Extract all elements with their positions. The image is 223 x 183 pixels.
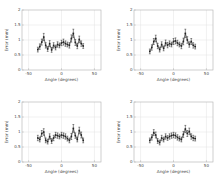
data-point bbox=[59, 45, 61, 47]
data-point bbox=[51, 49, 53, 51]
data-point bbox=[179, 138, 181, 140]
data-point bbox=[65, 43, 67, 45]
data-point bbox=[167, 44, 169, 46]
data-point bbox=[157, 140, 159, 142]
svg-text:2: 2 bbox=[18, 7, 21, 12]
data-point bbox=[39, 46, 41, 48]
data-point bbox=[163, 139, 165, 141]
data-point bbox=[187, 133, 189, 135]
x-axis-label: Angle (degrees) bbox=[157, 169, 191, 174]
data-point bbox=[173, 41, 175, 43]
data-point bbox=[149, 140, 151, 142]
data-point bbox=[183, 41, 185, 43]
svg-text:0: 0 bbox=[18, 159, 21, 164]
svg-text:1.5: 1.5 bbox=[14, 22, 21, 27]
svg-text:0: 0 bbox=[60, 163, 63, 168]
data-point bbox=[165, 42, 167, 44]
data-point bbox=[159, 49, 161, 51]
data-point bbox=[67, 138, 69, 140]
chart-bottom-right: -5005000.511.52Angle (degrees)Error (mm) bbox=[112, 92, 223, 183]
svg-text:1: 1 bbox=[130, 129, 133, 134]
svg-text:1: 1 bbox=[130, 37, 133, 42]
data-point bbox=[194, 46, 196, 48]
svg-text:0: 0 bbox=[60, 71, 63, 76]
data-point bbox=[163, 48, 165, 50]
data-point bbox=[151, 137, 153, 139]
data-point bbox=[167, 137, 169, 139]
data-point bbox=[39, 139, 41, 141]
svg-text:1.5: 1.5 bbox=[14, 114, 21, 119]
data-point bbox=[190, 41, 192, 43]
data-point bbox=[61, 42, 63, 44]
svg-text:0: 0 bbox=[172, 71, 175, 76]
data-point bbox=[63, 41, 65, 43]
chart-top-left: -5005000.511.52Angle (degrees)Error (mm) bbox=[0, 0, 111, 91]
data-point bbox=[69, 140, 71, 142]
data-point bbox=[37, 49, 39, 51]
data-point bbox=[77, 45, 79, 47]
data-point bbox=[49, 136, 51, 138]
data-point bbox=[57, 135, 59, 137]
data-point bbox=[183, 134, 185, 136]
data-point bbox=[192, 137, 194, 139]
data-point bbox=[185, 128, 187, 130]
data-point bbox=[189, 131, 191, 133]
data-point bbox=[189, 44, 191, 46]
svg-text:0: 0 bbox=[172, 163, 175, 168]
svg-text:1.5: 1.5 bbox=[126, 22, 133, 27]
data-point bbox=[171, 135, 173, 137]
data-point bbox=[55, 134, 57, 136]
svg-text:0: 0 bbox=[130, 67, 133, 72]
svg-text:-50: -50 bbox=[137, 163, 144, 168]
data-point bbox=[181, 45, 183, 47]
data-point bbox=[80, 134, 82, 136]
data-point bbox=[185, 33, 187, 35]
data-point bbox=[67, 44, 69, 46]
data-point bbox=[151, 47, 153, 49]
data-point bbox=[181, 139, 183, 141]
svg-text:1.5: 1.5 bbox=[126, 114, 133, 119]
data-point bbox=[63, 135, 65, 137]
data-point bbox=[149, 51, 151, 53]
data-point bbox=[78, 130, 80, 132]
data-point bbox=[61, 134, 63, 136]
data-point bbox=[155, 38, 157, 40]
data-point bbox=[53, 137, 55, 139]
x-axis-label: Angle (degrees) bbox=[157, 77, 191, 82]
svg-text:1: 1 bbox=[18, 37, 21, 42]
data-point bbox=[171, 44, 173, 46]
figure-canvas: -5005000.511.52Angle (degrees)Error (mm)… bbox=[0, 0, 223, 183]
svg-text:50: 50 bbox=[92, 163, 98, 168]
data-point bbox=[57, 44, 59, 46]
svg-text:-50: -50 bbox=[25, 163, 32, 168]
data-point bbox=[71, 38, 73, 40]
svg-text:0.5: 0.5 bbox=[126, 144, 133, 149]
data-point bbox=[161, 137, 163, 139]
data-point bbox=[59, 136, 61, 138]
data-point bbox=[175, 40, 177, 42]
data-point bbox=[82, 140, 84, 142]
data-point bbox=[169, 136, 171, 138]
data-point bbox=[161, 44, 163, 46]
data-point bbox=[73, 33, 75, 35]
x-axis-label: Angle (degrees) bbox=[45, 77, 79, 82]
data-point bbox=[82, 45, 84, 47]
data-point bbox=[75, 135, 77, 137]
data-point bbox=[192, 45, 194, 47]
data-point bbox=[43, 36, 45, 38]
data-point bbox=[73, 128, 75, 130]
data-point bbox=[80, 43, 82, 45]
data-point bbox=[175, 135, 177, 137]
data-point bbox=[41, 133, 43, 135]
y-axis-label: Error (mm) bbox=[4, 120, 9, 143]
svg-text:2: 2 bbox=[130, 99, 133, 104]
svg-text:50: 50 bbox=[92, 71, 98, 76]
data-point bbox=[47, 48, 49, 50]
data-point bbox=[177, 42, 179, 44]
chart-top-right: -5005000.511.52Angle (degrees)Error (mm) bbox=[112, 0, 223, 91]
data-point bbox=[45, 45, 47, 47]
data-point bbox=[190, 136, 192, 138]
data-point bbox=[165, 136, 167, 138]
svg-text:2: 2 bbox=[18, 99, 21, 104]
svg-text:0.5: 0.5 bbox=[14, 52, 21, 57]
